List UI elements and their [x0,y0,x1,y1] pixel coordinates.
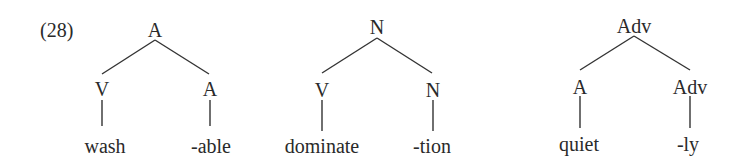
tree1-left-leaf: wash [84,136,125,156]
tree2-right-node: N [426,80,440,100]
tree3-left-leaf: quiet [559,134,599,154]
tree1-root: A [148,20,162,40]
tree1-right-leaf: -able [191,136,231,156]
tree1-right-node: A [203,79,217,99]
tree1-left-node: V [95,79,109,99]
tree3-right-leaf: -ly [677,134,699,154]
tree3-root: Adv [617,16,651,36]
tree3-left-node: A [573,77,587,97]
tree3-right-node: Adv [673,77,707,97]
example-number: (28) [40,20,73,40]
tree2-left-node: V [315,80,329,100]
tree2-root: N [370,17,384,37]
tree2-right-leaf: -tion [413,136,451,156]
tree2-left-leaf: dominate [285,136,359,156]
